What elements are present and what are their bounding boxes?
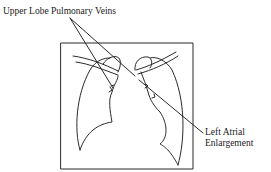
right-lung-outer bbox=[77, 58, 110, 150]
pointer-upper-right bbox=[70, 18, 113, 88]
radiograph-frame bbox=[61, 43, 193, 169]
pointer-upper-left bbox=[70, 18, 135, 76]
chest-diagram bbox=[0, 0, 271, 172]
